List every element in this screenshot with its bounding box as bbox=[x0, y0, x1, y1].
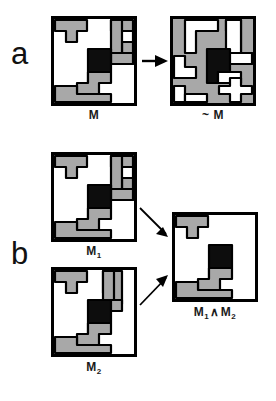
caption-not-m: ~ M bbox=[170, 108, 256, 122]
mosaic-m1-and-m2 bbox=[172, 212, 258, 302]
mosaic-not-m bbox=[170, 16, 256, 106]
caption-m2-sub: 2 bbox=[97, 367, 102, 376]
mosaic-m1-and-m2-svg bbox=[172, 212, 258, 302]
caption-m: M bbox=[51, 108, 137, 122]
mosaic-m2-svg bbox=[51, 267, 137, 357]
caption-m1-sub: 1 bbox=[97, 251, 102, 260]
mosaic-m-svg bbox=[51, 16, 137, 106]
panel-label-b: b bbox=[11, 238, 28, 269]
mosaic-m2 bbox=[51, 267, 137, 357]
caption-res-operator: ∧ bbox=[209, 305, 221, 319]
caption-res-left-sub: 1 bbox=[204, 312, 209, 321]
mosaic-not-m-svg bbox=[170, 16, 256, 106]
negation-arrow-svg bbox=[141, 52, 169, 70]
panel-label-a: a bbox=[11, 38, 28, 69]
mosaic-m bbox=[51, 16, 137, 106]
caption-m2-base: M bbox=[86, 360, 97, 374]
mosaic-m1 bbox=[51, 152, 137, 242]
caption-m1-and-m2: M1∧M2 bbox=[165, 305, 265, 319]
caption-res-right-base: M bbox=[221, 305, 232, 319]
negation-arrow bbox=[141, 52, 169, 70]
caption-m1-base: M bbox=[86, 244, 97, 258]
figure-root: a b M bbox=[0, 0, 276, 401]
caption-m2: M2 bbox=[51, 360, 137, 374]
caption-m1: M1 bbox=[51, 244, 137, 258]
m2-to-result-arrow bbox=[140, 275, 168, 305]
caption-res-left-base: M bbox=[194, 305, 205, 319]
mosaic-m1-svg bbox=[51, 152, 137, 242]
m1-to-result-arrow bbox=[140, 208, 168, 237]
caption-res-right-sub: 2 bbox=[231, 312, 236, 321]
